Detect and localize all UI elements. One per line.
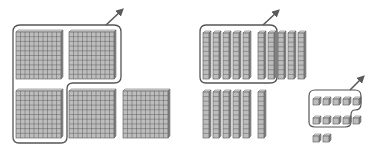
tens-rod — [233, 31, 241, 79]
ones-cube — [323, 116, 331, 124]
hundreds-arrow-icon — [106, 11, 121, 25]
ones-cube — [333, 116, 341, 124]
base-ten-blocks-diagram: Base-ten blocks regrouping — [0, 0, 381, 153]
tens-rod — [223, 90, 231, 138]
ones-cube — [313, 97, 321, 105]
tens-rod — [258, 90, 266, 138]
ones-cube — [313, 116, 321, 124]
tens-rod — [278, 31, 286, 79]
tens-rod — [213, 90, 221, 138]
ones-cube — [343, 116, 351, 124]
tens-arrow-icon — [263, 12, 277, 25]
tens-rod — [203, 90, 211, 138]
ones-cube — [323, 134, 331, 142]
hundreds-flat — [16, 89, 63, 138]
ones-cube — [343, 97, 351, 105]
tens-rod — [258, 31, 266, 79]
tens-rod — [223, 31, 231, 79]
tens-rod — [288, 31, 296, 79]
tens-rod — [268, 31, 276, 79]
ones-cube — [323, 97, 331, 105]
hundreds-flats-group — [16, 30, 170, 138]
ones-cubes-group — [313, 97, 361, 142]
tens-rod — [298, 31, 306, 79]
ones-cube — [353, 97, 361, 105]
ones-cube — [313, 134, 321, 142]
ones-cube — [353, 116, 361, 124]
tens-rods-group — [203, 31, 306, 138]
tens-rod — [243, 90, 251, 138]
ones-arrow-icon — [350, 78, 362, 90]
ones-cube — [333, 97, 341, 105]
hundreds-flat — [16, 30, 63, 79]
diagram-canvas — [0, 0, 381, 153]
tens-rod — [203, 31, 211, 79]
tens-rod — [213, 31, 221, 79]
tens-rod — [243, 31, 251, 79]
hundreds-flat — [69, 89, 116, 138]
hundreds-flat — [123, 89, 170, 138]
tens-rod — [233, 90, 241, 138]
hundreds-flat — [69, 30, 116, 79]
